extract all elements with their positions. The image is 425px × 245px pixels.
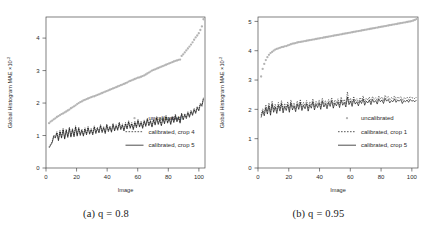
caption-b: (b) q = 0.95 xyxy=(212,208,425,219)
y-tick-label: 2 xyxy=(248,107,252,113)
data-point xyxy=(190,43,192,45)
legend-label: calibrated, crop 5 xyxy=(149,142,196,148)
data-point xyxy=(182,53,184,55)
data-point xyxy=(191,41,193,43)
x-tick-label: 40 xyxy=(104,174,111,180)
legend: uncalibratedcalibrated, crop 1calibrated… xyxy=(338,115,408,148)
figure-container: 01234020406080100ImageGlobal Histogram M… xyxy=(0,0,425,245)
panel-a: 01234020406080100ImageGlobal Histogram M… xyxy=(0,0,212,245)
data-point xyxy=(196,34,198,36)
data-point xyxy=(260,75,262,77)
x-tick-label: 40 xyxy=(316,174,323,180)
panel-b: 012345020406080100ImageGlobal Histogram … xyxy=(212,0,425,245)
y-tick-label: 4 xyxy=(36,35,40,41)
x-tick-label: 80 xyxy=(165,174,172,180)
x-tick-label: 100 xyxy=(194,174,205,180)
y-tick-label: 5 xyxy=(248,19,252,25)
x-tick-label: 0 xyxy=(256,174,260,180)
data-point xyxy=(266,56,268,58)
data-point xyxy=(188,45,190,47)
data-point xyxy=(415,18,417,20)
legend-label: uncalibrated xyxy=(361,115,394,121)
data-point xyxy=(198,32,200,34)
series-uncalibrated xyxy=(48,18,205,124)
plot-area-b: 012345020406080100ImageGlobal Histogram … xyxy=(212,0,425,205)
x-tick-label: 0 xyxy=(44,174,48,180)
chart-svg-b: 012345020406080100ImageGlobal Histogram … xyxy=(212,0,425,205)
series-uncalibrated xyxy=(260,18,418,78)
y-tick-label: 0 xyxy=(36,165,40,171)
legend-label: calibrated, crop 5 xyxy=(361,142,408,148)
x-axis-label: Image xyxy=(330,187,346,193)
data-point xyxy=(195,36,197,38)
y-tick-label: 0 xyxy=(248,165,252,171)
y-axis-label: Global Histogram MAE ×10-2 xyxy=(6,56,13,128)
x-tick-label: 20 xyxy=(285,174,292,180)
y-tick-label: 1 xyxy=(36,133,40,139)
data-point xyxy=(193,39,195,41)
data-point xyxy=(179,58,181,60)
data-point xyxy=(265,59,267,61)
y-tick-label: 2 xyxy=(36,100,40,106)
chart-svg-a: 01234020406080100ImageGlobal Histogram M… xyxy=(0,0,212,205)
legend-marker-points xyxy=(346,117,348,119)
x-axis-label: Image xyxy=(118,187,134,193)
y-tick-label: 4 xyxy=(248,48,252,54)
legend: uncalibratedcalibrated, crop 4calibrated… xyxy=(126,115,196,148)
data-point xyxy=(202,18,204,20)
data-point xyxy=(268,54,270,56)
y-tick-label: 3 xyxy=(36,68,40,74)
x-tick-label: 100 xyxy=(407,174,418,180)
data-point xyxy=(263,63,265,65)
data-point xyxy=(199,29,201,31)
y-tick-label: 1 xyxy=(248,136,252,142)
x-tick-label: 20 xyxy=(73,174,80,180)
data-point xyxy=(187,47,189,49)
x-tick-label: 60 xyxy=(134,174,141,180)
data-point xyxy=(184,51,186,53)
x-tick-label: 80 xyxy=(378,174,385,180)
data-point xyxy=(185,49,187,51)
y-axis-label: Global Histogram MAE ×10-2 xyxy=(218,56,225,128)
x-tick-label: 60 xyxy=(347,174,354,180)
caption-b-text: (b) q = 0.95 xyxy=(292,208,344,219)
plot-area-a: 01234020406080100ImageGlobal Histogram M… xyxy=(0,0,212,205)
y-tick-label: 3 xyxy=(248,77,252,83)
legend-marker-points xyxy=(133,117,135,119)
caption-a: (a) q = 0.8 xyxy=(0,208,212,219)
legend-label: calibrated, crop 1 xyxy=(361,129,408,135)
legend-label: calibrated, crop 4 xyxy=(149,129,196,135)
series-line-solid xyxy=(49,99,203,148)
legend-label: uncalibrated xyxy=(149,115,182,121)
y-axis-label-group: Global Histogram MAE ×10-2 xyxy=(218,56,225,128)
caption-a-text: (a) q = 0.8 xyxy=(83,208,129,219)
data-point xyxy=(262,68,264,70)
y-axis-label-group: Global Histogram MAE ×10-2 xyxy=(6,56,13,128)
data-point xyxy=(201,25,203,27)
